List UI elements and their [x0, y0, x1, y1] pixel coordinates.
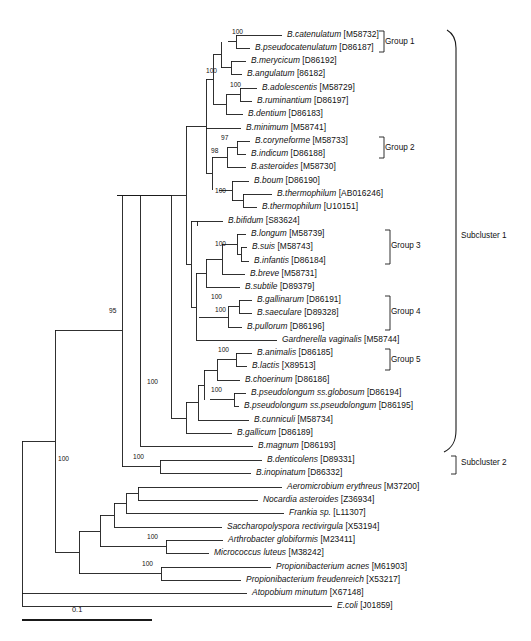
taxon-accession: [X89513] [279, 360, 315, 370]
taxon-name: B.pseudolongum ss.pseudolongum [244, 400, 376, 410]
taxon-name: B.bifidum [228, 215, 263, 225]
taxon-accession: [D86194] [365, 387, 402, 397]
taxon-label: B.thermophilum [U10151] [262, 202, 358, 211]
group-label: Group 3 [391, 241, 421, 250]
taxon-accession: [M58729] [317, 82, 355, 92]
taxon-label: B.bifidum [S83624] [228, 216, 300, 225]
taxon-label: Gardnerella vaginalis [M58744] [282, 335, 399, 344]
taxon-name: B.denticolens [267, 454, 318, 464]
taxon-label: B.pseudocatenulatum [D86187] [255, 43, 374, 52]
taxon-accession: [M58739] [287, 228, 325, 238]
bootstrap-value: 100 [147, 533, 158, 540]
taxon-name: Aeromicrobium erythreus [287, 481, 382, 491]
taxon-accession: [M58734] [295, 414, 333, 424]
taxon-name: B.suis [252, 241, 275, 251]
scale-bar-label: 0.1 [72, 606, 82, 614]
taxon-label: B.thermophilum [AB016246] [277, 189, 383, 198]
taxon-name: B.saeculare [257, 307, 302, 317]
taxon-accession: [D86188] [288, 148, 325, 158]
taxon-accession: [D86185] [296, 347, 333, 357]
taxon-label: B.suis [M58743] [252, 242, 313, 251]
taxon-accession: [S83624] [263, 215, 299, 225]
taxon-name: B.breve [250, 268, 279, 278]
taxon-accession: [D86193] [299, 440, 336, 450]
taxon-name: Propionibacterium freudenreich [246, 574, 364, 584]
taxon-name: B.pseudocatenulatum [255, 42, 337, 52]
taxon-label: B.dentium [D86183] [248, 109, 323, 118]
taxon-name: B.indicum [251, 148, 288, 158]
taxon-accession: [D89331] [318, 454, 355, 464]
taxon-accession: [X53194] [343, 521, 379, 531]
taxon-accession: [M61903] [369, 561, 407, 571]
taxon-name: B.thermophilum [277, 188, 336, 198]
taxon-label: B.asteroides [M58730] [251, 162, 336, 171]
taxon-name: B.thermophilum [262, 201, 321, 211]
taxon-accession: [M58741] [288, 122, 326, 132]
taxon-name: B.lactis [252, 360, 279, 370]
taxon-name: B.longum [251, 228, 287, 238]
taxon-accession: [D86187] [337, 42, 374, 52]
taxon-accession: [D86197] [312, 95, 349, 105]
taxon-label: B.choerinum [D86186] [245, 375, 329, 384]
group-label: Group 2 [385, 143, 415, 152]
taxon-accession: [D86190] [283, 175, 320, 185]
bootstrap-value: 100 [211, 386, 222, 393]
taxon-accession: [X53217] [364, 574, 400, 584]
taxon-label: B.pseudolongum ss.globosum [D86194] [251, 388, 401, 397]
group-label: Group 1 [385, 37, 415, 46]
taxon-accession: [U10151] [321, 201, 358, 211]
taxon-label: Arthrobacter globiformis [M23411] [228, 535, 355, 544]
taxon-label: B.magnum [D86193] [258, 441, 336, 450]
taxon-name: B.coryneforme [255, 135, 310, 145]
taxon-accession: [D86184] [289, 255, 326, 265]
taxon-label: B.adolescentis [M58729] [262, 83, 355, 92]
taxon-label: B.gallinarum [D86191] [257, 295, 341, 304]
taxon-accession: [D86192] [300, 55, 337, 65]
taxon-name: Saccharopolyspora rectivirgula [227, 521, 343, 531]
taxon-accession: [D86191] [304, 294, 341, 304]
taxon-accession: [M58732] [341, 29, 379, 39]
taxon-label: B.gallicum [D86189] [237, 428, 313, 437]
taxon-label: B.angulatum [86182] [247, 69, 325, 78]
taxon-label: E.coli [J01859] [337, 601, 393, 610]
taxon-accession: [D86196] [288, 321, 325, 331]
taxon-accession: [D86183] [286, 108, 323, 118]
taxon-name: Gardnerella vaginalis [282, 334, 362, 344]
taxon-label: B.pullorum [D86196] [247, 322, 324, 331]
bootstrap-value: 97 [221, 134, 228, 141]
bootstrap-value: 100 [215, 306, 226, 313]
taxon-label: Atopobium minutum [X67148] [252, 588, 364, 597]
taxon-name: B.ruminantium [257, 95, 312, 105]
taxon-name: B.boum [254, 175, 283, 185]
bootstrap-value: 100 [206, 67, 217, 74]
taxon-label: B.breve [M58731] [250, 269, 317, 278]
taxon-label: B.indicum [D86188] [251, 149, 325, 158]
taxon-label: Propionibacterium freudenreich [X53217] [246, 575, 400, 584]
bootstrap-value: 100 [230, 81, 241, 88]
taxon-name: Micrococcus luteus [214, 547, 286, 557]
taxon-label: B.saeculare [D89328] [257, 308, 339, 317]
taxon-label: B.minimum [M58741] [246, 123, 326, 132]
taxon-accession: [D89328] [302, 307, 339, 317]
taxon-label: Frankia sp. [L11307] [289, 508, 366, 517]
bootstrap-value: 100 [133, 453, 144, 460]
subcluster-label: Subcluster 1 [461, 231, 507, 240]
taxon-name: Nocardia asteroides [263, 494, 338, 504]
bootstrap-value: 100 [142, 560, 153, 567]
taxon-accession: [D89379] [278, 281, 315, 291]
taxon-label: B.lactis [X89513] [252, 361, 316, 370]
taxon-label: B.subtile [D89379] [245, 282, 314, 291]
bootstrap-value: 100 [218, 346, 229, 353]
taxon-accession: [M58744] [362, 334, 400, 344]
taxon-accession: [J01859] [358, 600, 393, 610]
taxon-accession: [M58733] [310, 135, 348, 145]
taxon-name: B.gallicum [237, 427, 276, 437]
taxon-name: Arthrobacter globiformis [228, 534, 318, 544]
bootstrap-value: 100 [211, 293, 222, 300]
taxon-accession: [X67148] [327, 587, 363, 597]
bootstrap-value: 100 [58, 455, 69, 462]
taxon-name: B.magnum [258, 440, 299, 450]
taxon-accession: [D86186] [293, 374, 330, 384]
taxon-accession: [M38242] [286, 547, 324, 557]
taxon-label: Micrococcus luteus [M38242] [214, 548, 324, 557]
